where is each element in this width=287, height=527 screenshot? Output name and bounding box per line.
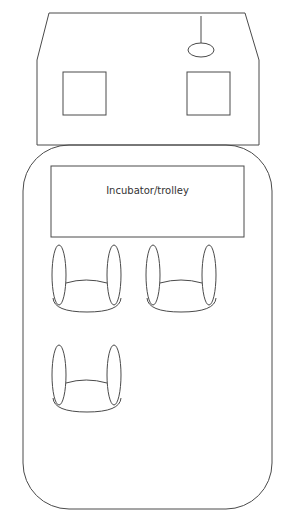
cabin-outline	[37, 13, 259, 145]
seat-3-icon	[52, 345, 121, 412]
cabin-front	[37, 13, 259, 145]
incubator-box	[51, 166, 244, 237]
pendant-light-icon	[188, 43, 214, 57]
right-window-icon	[187, 72, 230, 115]
incubator-label: Incubator/trolley	[106, 185, 189, 196]
vehicle-body: Incubator/trolley	[23, 145, 272, 509]
left-window-icon	[63, 72, 106, 115]
vehicle-outline	[23, 145, 272, 509]
diagram-canvas: Incubator/trolley	[0, 0, 287, 527]
incubator-trolley: Incubator/trolley	[51, 166, 244, 237]
seat-2-icon	[146, 245, 216, 312]
seat-1-icon	[52, 245, 121, 312]
